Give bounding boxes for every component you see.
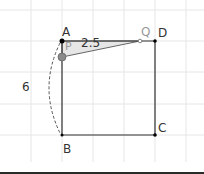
label-p: P: [65, 40, 72, 53]
point-p[interactable]: [58, 53, 66, 61]
point-b[interactable]: [61, 134, 64, 137]
label-segment-length: 2.5: [81, 36, 100, 50]
point-a[interactable]: [60, 39, 65, 44]
bottom-bar: [0, 162, 204, 174]
label-d: D: [158, 26, 167, 40]
point-d[interactable]: [153, 39, 157, 43]
label-a: A: [62, 25, 71, 39]
label-c: C: [158, 121, 166, 135]
bottom-divider: [0, 172, 204, 174]
triangle-apq: [62, 41, 140, 57]
point-c[interactable]: [153, 133, 157, 137]
geometry-canvas[interactable]: A P 2.5 Q D 6 C B: [0, 0, 204, 162]
label-q: Q: [141, 25, 150, 39]
label-side-length: 6: [22, 80, 30, 94]
grid: [0, 0, 204, 162]
label-b: B: [63, 142, 71, 156]
square-abcd: [62, 41, 155, 135]
point-q[interactable]: [138, 39, 142, 43]
